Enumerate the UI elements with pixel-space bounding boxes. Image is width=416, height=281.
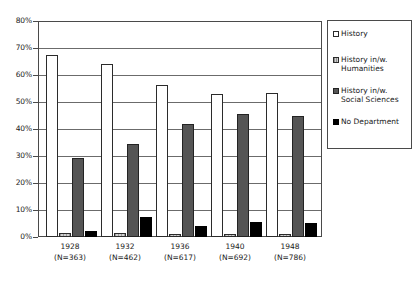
legend-item-no-department: No Department bbox=[333, 117, 411, 126]
bar-history-humanities bbox=[224, 234, 236, 237]
x-axis-label-group: 1932 (N=462) bbox=[97, 241, 153, 263]
x-axis-sample-size-label: (N=462) bbox=[97, 252, 153, 263]
bar-history-humanities bbox=[279, 234, 291, 237]
white-swatch-icon bbox=[333, 31, 339, 37]
bar-no-department bbox=[140, 217, 152, 237]
legend-label: History bbox=[341, 29, 368, 38]
bar-history bbox=[211, 94, 223, 237]
bar-no-department bbox=[305, 223, 317, 237]
legend-label: History in/w. Humanities bbox=[341, 55, 387, 73]
x-axis-category-label: 1936 bbox=[152, 241, 208, 252]
bar-history-social-sciences bbox=[127, 144, 139, 237]
x-axis-sample-size-label: (N=692) bbox=[207, 252, 263, 263]
bar-no-department bbox=[85, 231, 97, 237]
x-axis-label-group: 1936 (N=617) bbox=[152, 241, 208, 263]
bar-history bbox=[46, 55, 58, 237]
chart-legend: History History in/w. Humanities History… bbox=[327, 20, 412, 149]
legend-item-history-humanities: History in/w. Humanities bbox=[333, 55, 411, 73]
x-axis: 1928 (N=363) 1932 (N=462) 1936 (N=617) 1… bbox=[38, 241, 322, 275]
bar-history bbox=[156, 85, 168, 237]
bar-group-1936 bbox=[156, 21, 204, 237]
y-axis-tick-label: 40% bbox=[0, 125, 32, 133]
x-axis-sample-size-label: (N=617) bbox=[152, 252, 208, 263]
bar-history-social-sciences bbox=[72, 158, 84, 237]
light-gray-swatch-icon bbox=[333, 57, 339, 63]
y-axis-tick-label: 70% bbox=[0, 44, 32, 52]
y-axis: 80% 70% 60% 50% 40% 30% 20% 10% 0% bbox=[0, 0, 34, 281]
bar-history bbox=[266, 93, 278, 237]
bar-history-humanities bbox=[114, 233, 126, 237]
x-axis-label-group: 1940 (N=692) bbox=[207, 241, 263, 263]
bar-history-social-sciences bbox=[237, 114, 249, 237]
bar-group-1928 bbox=[46, 21, 94, 237]
bar-group-1940 bbox=[211, 21, 259, 237]
bar-history bbox=[101, 64, 113, 237]
legend-item-history-social-sciences: History in/w. Social Sciences bbox=[333, 86, 411, 104]
bar-chart: 80% 70% 60% 50% 40% 30% 20% 10% 0% bbox=[0, 0, 416, 281]
bar-history-humanities bbox=[59, 233, 71, 237]
x-axis-label-group: 1928 (N=363) bbox=[42, 241, 98, 263]
y-axis-tick-label: 50% bbox=[0, 98, 32, 106]
bar-groups bbox=[38, 21, 322, 237]
y-axis-tick-mark bbox=[33, 237, 38, 238]
y-axis-tick-label: 20% bbox=[0, 179, 32, 187]
x-axis-category-label: 1948 bbox=[262, 241, 318, 252]
y-axis-tick-label: 0% bbox=[0, 233, 32, 241]
y-axis-tick-label: 10% bbox=[0, 206, 32, 214]
bar-history-social-sciences bbox=[292, 116, 304, 237]
x-axis-category-label: 1940 bbox=[207, 241, 263, 252]
dark-gray-swatch-icon bbox=[333, 88, 339, 94]
bar-no-department bbox=[250, 222, 262, 237]
y-axis-tick-label: 80% bbox=[0, 17, 32, 25]
legend-label: No Department bbox=[341, 117, 399, 126]
x-axis-category-label: 1932 bbox=[97, 241, 153, 252]
bar-group-1948 bbox=[266, 21, 314, 237]
legend-item-history: History bbox=[333, 29, 411, 38]
bar-history-social-sciences bbox=[182, 124, 194, 237]
y-axis-tick-label: 30% bbox=[0, 152, 32, 160]
x-axis-sample-size-label: (N=363) bbox=[42, 252, 98, 263]
bar-history-humanities bbox=[169, 234, 181, 238]
x-axis-label-group: 1948 (N=786) bbox=[262, 241, 318, 263]
y-axis-tick-label: 60% bbox=[0, 71, 32, 79]
bar-group-1932 bbox=[101, 21, 149, 237]
bar-no-department bbox=[195, 226, 207, 237]
x-axis-sample-size-label: (N=786) bbox=[262, 252, 318, 263]
x-axis-category-label: 1928 bbox=[42, 241, 98, 252]
legend-label: History in/w. Social Sciences bbox=[341, 86, 399, 104]
black-swatch-icon bbox=[333, 119, 339, 125]
